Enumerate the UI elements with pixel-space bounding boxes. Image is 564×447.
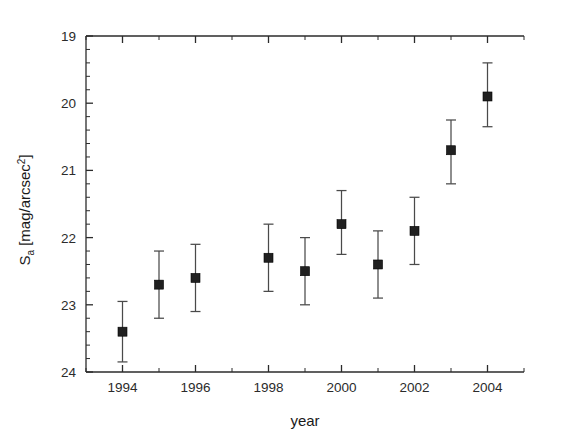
data-marker <box>191 273 200 282</box>
y-tick-label: 19 <box>61 29 76 44</box>
x-tick-label: 2002 <box>399 380 429 395</box>
y-tick-label: 21 <box>61 163 76 178</box>
data-marker <box>118 327 127 336</box>
data-point-group <box>191 244 201 311</box>
data-marker <box>410 226 419 235</box>
data-point-group <box>264 224 274 291</box>
x-tick-label: 2000 <box>326 380 356 395</box>
y-tick-label: 24 <box>61 365 77 380</box>
data-point-group <box>300 238 310 305</box>
data-point-group <box>410 197 420 264</box>
data-marker <box>155 280 164 289</box>
x-axis-title: year <box>290 412 319 429</box>
x-tick-label: 1998 <box>253 380 283 395</box>
data-point-group <box>154 251 164 318</box>
y-axis-title: Sa [mag/arcsec2] <box>16 154 36 265</box>
data-marker <box>301 267 310 276</box>
x-tick-label: 1994 <box>107 380 138 395</box>
data-point-group <box>118 301 128 361</box>
y-tick-label: 20 <box>61 96 76 111</box>
data-marker <box>483 92 492 101</box>
data-marker <box>374 260 383 269</box>
data-point-group <box>483 63 493 127</box>
y-tick-label: 22 <box>61 231 76 246</box>
data-marker <box>447 146 456 155</box>
data-marker <box>264 253 273 262</box>
data-point-group <box>446 120 456 184</box>
scatter-plot-errorbars: 192021222324199419961998200020022004year… <box>0 0 564 447</box>
x-tick-label: 1996 <box>180 380 210 395</box>
data-point-group <box>373 231 383 298</box>
data-marker <box>337 220 346 229</box>
y-tick-label: 23 <box>61 298 76 313</box>
chart-figure: 192021222324199419961998200020022004year… <box>0 0 564 447</box>
data-point-group <box>337 191 347 255</box>
x-tick-label: 2004 <box>472 380 503 395</box>
